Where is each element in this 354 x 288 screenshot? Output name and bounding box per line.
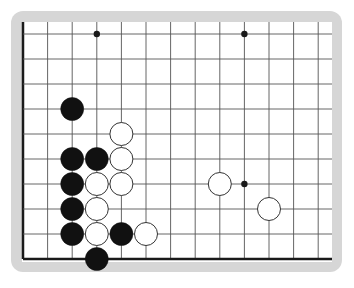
- black-stone[interactable]: [61, 223, 84, 246]
- white-stone[interactable]: [110, 123, 133, 146]
- black-stone[interactable]: [61, 148, 84, 171]
- white-stone[interactable]: [135, 223, 158, 246]
- white-stone[interactable]: [85, 223, 108, 246]
- black-stone[interactable]: [61, 98, 84, 121]
- white-stone[interactable]: [110, 173, 133, 196]
- white-stone[interactable]: [110, 148, 133, 171]
- star-point: [241, 31, 247, 37]
- white-stone[interactable]: [85, 198, 108, 221]
- white-stone[interactable]: [85, 173, 108, 196]
- white-stone[interactable]: [208, 173, 231, 196]
- black-stone[interactable]: [61, 173, 84, 196]
- star-point: [241, 181, 247, 187]
- white-stone[interactable]: [258, 198, 281, 221]
- board-grid[interactable]: [0, 0, 354, 288]
- black-stone[interactable]: [61, 198, 84, 221]
- black-stone[interactable]: [85, 248, 108, 271]
- black-stone[interactable]: [85, 148, 108, 171]
- star-point: [94, 31, 100, 37]
- black-stone[interactable]: [110, 223, 133, 246]
